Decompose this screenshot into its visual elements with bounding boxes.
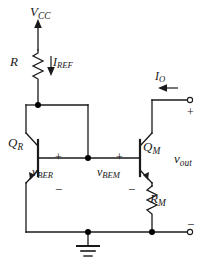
label-resistor-r: R [10,55,18,68]
label-vber: vBER [32,166,53,178]
qm-emitter-arrow [143,172,149,180]
label-transistor-qr: QR [8,136,23,149]
label-current-io: IO [155,70,165,82]
polarity-plus-vout: + [187,106,194,118]
polarity-minus-vber: − [55,183,62,196]
label-vcc: VCC [30,5,50,18]
polarity-minus-vout: − [187,218,194,231]
label-current-iref: IREF [53,56,73,68]
label-vbem: vBEM [97,166,120,178]
output-terminal-positive [187,97,192,102]
label-vout: vout [174,152,192,165]
circuit-schematic-canvas [0,0,211,267]
io-arrow-head [158,84,167,92]
circuit-diagram: VCC R IREF IO QR QM vBER vBEM RM vout + … [0,0,211,267]
polarity-plus-vbem: + [116,151,123,163]
node-dot-supply-tie [35,102,41,108]
qr-collector-lead [26,133,38,146]
node-dot-ground [85,229,91,235]
polarity-plus-vber: + [55,151,62,163]
label-resistor-rm: RM [150,192,166,205]
node-dot-rm-ground [149,229,155,235]
polarity-minus-vbem: − [128,183,135,196]
resistor-r-symbol [33,50,43,105]
label-transistor-qm: QM [143,140,160,153]
node-dot-base-rail [85,155,91,161]
